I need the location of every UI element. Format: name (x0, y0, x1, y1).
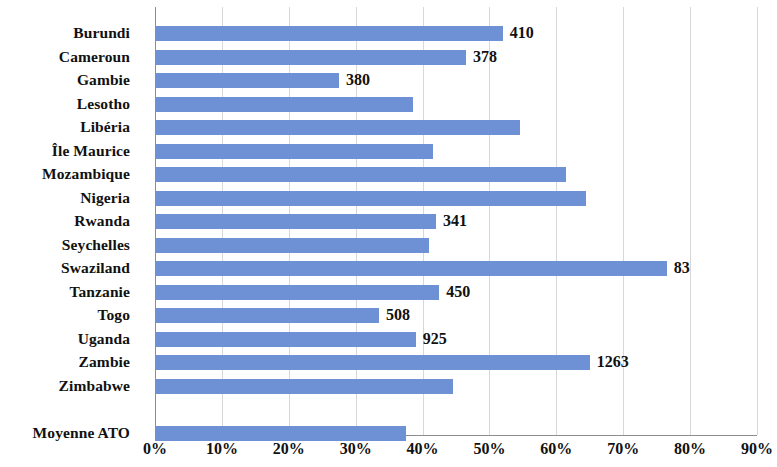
bar--le-maurice[interactable] (155, 144, 433, 159)
data-label-tanzanie: 450 (446, 283, 470, 301)
x-tick-40: 40% (393, 440, 453, 458)
category-label-togo: Togo (5, 306, 130, 324)
x-tick-80: 80% (660, 440, 720, 458)
bar-zambie[interactable] (155, 355, 590, 370)
bar-row: Tanzanie450 (0, 281, 777, 305)
bar-row: Seychelles (0, 234, 777, 258)
category-label-gambie: Gambie (5, 71, 130, 89)
bar-row: Mozambique (0, 163, 777, 187)
category-label-lib-ria: Libéria (5, 118, 130, 136)
x-tick-30: 30% (326, 440, 386, 458)
bar-rwanda[interactable] (155, 214, 436, 229)
category-label-tanzanie: Tanzanie (5, 283, 130, 301)
bar-swaziland[interactable] (155, 261, 667, 276)
category-label-uganda: Uganda (5, 330, 130, 348)
x-tick-20: 20% (259, 440, 319, 458)
x-tick-90: 90% (727, 440, 777, 458)
bar-tanzanie[interactable] (155, 285, 439, 300)
x-tick-0: 0% (125, 440, 185, 458)
category-label-swaziland: Swaziland (5, 259, 130, 277)
data-label-uganda: 925 (423, 330, 447, 348)
bar-row: Swaziland83 (0, 257, 777, 281)
bar-cameroun[interactable] (155, 50, 466, 65)
bar-row: Rwanda341 (0, 210, 777, 234)
category-label-moyenne-ato: Moyenne ATO (5, 424, 130, 442)
bar-row: Libéria (0, 116, 777, 140)
bar-chart: Burundi410Cameroun378Gambie380LesothoLib… (0, 0, 777, 467)
bar-row: Zimbabwe (0, 375, 777, 399)
category-label-lesotho: Lesotho (5, 95, 130, 113)
data-label-togo: 508 (386, 306, 410, 324)
bar-row: Zambie1263 (0, 351, 777, 375)
x-tick-70: 70% (593, 440, 653, 458)
bar-row: Île Maurice (0, 140, 777, 164)
category-label-zimbabwe: Zimbabwe (5, 377, 130, 395)
category-label-mozambique: Mozambique (5, 165, 130, 183)
data-label-rwanda: 341 (443, 212, 467, 230)
x-tick-10: 10% (192, 440, 252, 458)
bar-togo[interactable] (155, 308, 379, 323)
data-label-swaziland: 83 (674, 259, 690, 277)
bar-lesotho[interactable] (155, 97, 413, 112)
data-label-cameroun: 378 (473, 48, 497, 66)
bar-lib-ria[interactable] (155, 120, 520, 135)
bar-gambie[interactable] (155, 73, 339, 88)
bar-mozambique[interactable] (155, 167, 566, 182)
x-tick-50: 50% (459, 440, 519, 458)
bar-nigeria[interactable] (155, 191, 586, 206)
data-label-gambie: 380 (346, 71, 370, 89)
bar-uganda[interactable] (155, 332, 416, 347)
category-label--le-maurice: Île Maurice (5, 142, 130, 160)
category-label-nigeria: Nigeria (5, 189, 130, 207)
category-label-burundi: Burundi (5, 24, 130, 42)
bar-moyenne-ato[interactable] (155, 426, 406, 441)
bar-row: Gambie380 (0, 69, 777, 93)
bar-row: Nigeria (0, 187, 777, 211)
x-tick-60: 60% (526, 440, 586, 458)
category-label-zambie: Zambie (5, 353, 130, 371)
category-label-seychelles: Seychelles (5, 236, 130, 254)
bar-row: Cameroun378 (0, 46, 777, 70)
bar-zimbabwe[interactable] (155, 379, 453, 394)
data-label-burundi: 410 (510, 24, 534, 42)
bar-burundi[interactable] (155, 26, 503, 41)
bar-seychelles[interactable] (155, 238, 429, 253)
bar-row (0, 398, 777, 422)
data-label-zambie: 1263 (597, 353, 629, 371)
bar-row: Uganda925 (0, 328, 777, 352)
bar-row: Togo508 (0, 304, 777, 328)
category-label-rwanda: Rwanda (5, 212, 130, 230)
bar-row: Lesotho (0, 93, 777, 117)
bar-row: Burundi410 (0, 22, 777, 46)
category-label-cameroun: Cameroun (5, 48, 130, 66)
